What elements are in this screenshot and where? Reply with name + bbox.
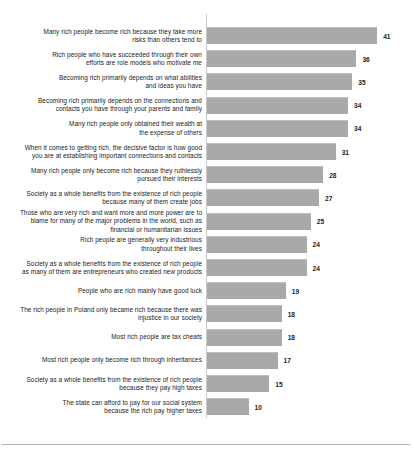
bar-value-label: 31 bbox=[342, 148, 349, 155]
bar-fill bbox=[207, 50, 356, 67]
bar-fill bbox=[207, 352, 278, 369]
horizontal-bar-chart: Many rich people become rich because the… bbox=[0, 0, 414, 454]
bar-row: Most rich people are tax cheats18 bbox=[0, 329, 414, 346]
bar-category-label: Becoming rich primarily depends on what … bbox=[2, 74, 202, 90]
bar-fill bbox=[207, 236, 307, 253]
bar-row: Rich people who have succeeded through t… bbox=[0, 50, 414, 67]
bar-row: Becoming rich primarily depends on what … bbox=[0, 73, 414, 90]
bar-category-label: Society as a whole benefits from the exi… bbox=[2, 375, 202, 391]
bar-row: The rich people in Poland only became ri… bbox=[0, 305, 414, 322]
bar-value-label: 27 bbox=[325, 194, 332, 201]
bar-fill bbox=[207, 375, 269, 392]
bar-value-label: 25 bbox=[317, 218, 324, 225]
bar-category-label: When it comes to getting rich, the decis… bbox=[2, 143, 202, 159]
bar-fill bbox=[207, 27, 377, 44]
bar-track bbox=[207, 352, 278, 369]
bar-row: Many rich people only become rich becaus… bbox=[0, 166, 414, 183]
bottom-divider bbox=[2, 444, 410, 445]
bar-row: Becoming rich primarily depends on the c… bbox=[0, 97, 414, 114]
bar-track bbox=[207, 329, 282, 346]
bar-track bbox=[207, 236, 307, 253]
bar-row: When it comes to getting rich, the decis… bbox=[0, 143, 414, 160]
bar-category-label: Society as a whole benefits from the exi… bbox=[2, 190, 202, 206]
bar-fill bbox=[207, 166, 323, 183]
bar-track bbox=[207, 259, 307, 276]
bar-value-label: 35 bbox=[358, 78, 365, 85]
bar-value-label: 41 bbox=[383, 32, 390, 39]
bar-track bbox=[207, 73, 352, 90]
bar-track bbox=[207, 213, 311, 230]
bar-value-label: 28 bbox=[329, 171, 336, 178]
bar-row: Many rich people only obtained their wea… bbox=[0, 120, 414, 137]
bar-track bbox=[207, 398, 249, 415]
bar-fill bbox=[207, 398, 249, 415]
bar-category-label: Becoming rich primarily depends on the c… bbox=[2, 97, 202, 113]
bar-track bbox=[207, 120, 348, 137]
bar-category-label: Many rich people only become rich becaus… bbox=[2, 166, 202, 182]
bar-value-label: 34 bbox=[354, 102, 361, 109]
bar-fill bbox=[207, 73, 352, 90]
bar-fill bbox=[207, 329, 282, 346]
bar-row: Society as a whole benefits from the exi… bbox=[0, 375, 414, 392]
bar-row: Society as a whole benefits from the exi… bbox=[0, 259, 414, 276]
bar-fill bbox=[207, 143, 336, 160]
bar-fill bbox=[207, 213, 311, 230]
bar-category-label: Those who are very rich and want more an… bbox=[2, 209, 202, 234]
bar-track bbox=[207, 97, 348, 114]
bar-track bbox=[207, 189, 319, 206]
bar-fill bbox=[207, 120, 348, 137]
bar-value-label: 19 bbox=[292, 287, 299, 294]
bar-row: Rich people are generally very industrio… bbox=[0, 236, 414, 253]
bar-value-label: 17 bbox=[284, 357, 291, 364]
bar-fill bbox=[207, 259, 307, 276]
bar-category-label: The state can afford to pay for our soci… bbox=[2, 398, 202, 414]
bar-track bbox=[207, 166, 323, 183]
bar-row: People who are rich mainly have good luc… bbox=[0, 282, 414, 299]
bar-value-label: 10 bbox=[255, 403, 262, 410]
bar-row: Society as a whole benefits from the exi… bbox=[0, 189, 414, 206]
bar-track bbox=[207, 282, 286, 299]
bar-value-label: 24 bbox=[313, 264, 320, 271]
bar-value-label: 15 bbox=[275, 380, 282, 387]
bar-row: The state can afford to pay for our soci… bbox=[0, 398, 414, 415]
bar-fill bbox=[207, 305, 282, 322]
bar-track bbox=[207, 305, 282, 322]
bar-fill bbox=[207, 282, 286, 299]
bar-category-label: People who are rich mainly have good luc… bbox=[2, 287, 202, 295]
bar-value-label: 18 bbox=[288, 310, 295, 317]
bar-value-label: 24 bbox=[313, 241, 320, 248]
bar-track bbox=[207, 375, 269, 392]
bar-category-label: Most rich people only become rich throug… bbox=[2, 356, 202, 364]
bar-value-label: 36 bbox=[362, 55, 369, 62]
bar-fill bbox=[207, 97, 348, 114]
bar-value-label: 18 bbox=[288, 334, 295, 341]
bar-category-label: Society as a whole benefits from the exi… bbox=[2, 259, 202, 275]
bar-category-label: Rich people who have succeeded through t… bbox=[2, 50, 202, 66]
bar-category-label: The rich people in Poland only became ri… bbox=[2, 306, 202, 322]
bar-category-label: Many rich people only obtained their wea… bbox=[2, 120, 202, 136]
plot-area: Many rich people become rich because the… bbox=[0, 0, 414, 430]
bar-fill bbox=[207, 189, 319, 206]
bar-track bbox=[207, 27, 377, 44]
bar-track bbox=[207, 50, 356, 67]
bar-category-label: Rich people are generally very industrio… bbox=[2, 236, 202, 252]
bar-category-label: Most rich people are tax cheats bbox=[2, 333, 202, 341]
bar-category-label: Many rich people become rich because the… bbox=[2, 27, 202, 43]
bar-row: Most rich people only become rich throug… bbox=[0, 352, 414, 369]
bar-value-label: 34 bbox=[354, 125, 361, 132]
bar-row: Those who are very rich and want more an… bbox=[0, 213, 414, 230]
bar-row: Many rich people become rich because the… bbox=[0, 27, 414, 44]
bar-track bbox=[207, 143, 336, 160]
